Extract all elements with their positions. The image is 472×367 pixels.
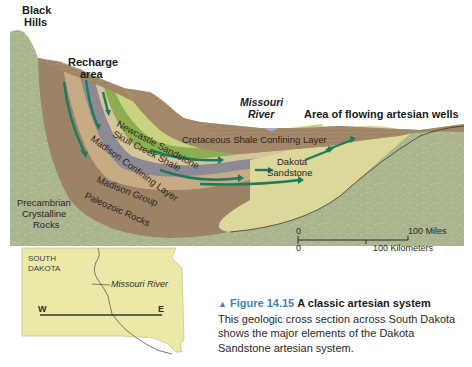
triangle-icon: ▲ [218, 299, 227, 309]
label-precambrian-2: Crystalline [22, 208, 66, 219]
label-black-hills-1: Black [22, 4, 52, 16]
figure-number: Figure 14.15 [230, 297, 294, 309]
figure-title: A classic artesian system [297, 297, 431, 309]
label-black-hills-2: Hills [24, 16, 47, 28]
inset-west: W [38, 304, 47, 314]
figure-body: This geologic cross section across South… [218, 313, 455, 354]
label-missouri-2: River [248, 108, 275, 120]
scale-miles-zero: 0 [296, 226, 301, 236]
scale-miles-label: 100 Miles [408, 226, 447, 236]
artesian-system-figure: Black Hills Recharge area Missouri River… [0, 0, 472, 367]
inset-east: E [158, 304, 164, 314]
label-cretaceous: Cretaceous Shale Confining Layer [182, 134, 327, 145]
label-recharge-2: area [80, 68, 104, 80]
inset-river-label: Missouri River [111, 279, 169, 289]
scale-km-label: 100 Kilometers [373, 243, 434, 253]
scale-km-zero: 0 [296, 243, 301, 253]
label-dakota-2: Sandstone [267, 167, 312, 178]
label-precambrian-1: Precambrian [17, 197, 71, 208]
inset-state-2: DAKOTA [28, 264, 61, 273]
label-precambrian-3: Rocks [33, 219, 60, 230]
inset-map-south-dakota: SOUTH DAKOTA Missouri River W E [22, 248, 184, 354]
label-recharge-1: Recharge [68, 56, 118, 68]
label-flowing-wells: Area of flowing artesian wells [304, 108, 459, 120]
label-missouri-1: Missouri [240, 96, 284, 108]
label-dakota-1: Dakota [277, 156, 308, 167]
figure-caption: ▲ Figure 14.15 A classic artesian system… [218, 296, 468, 355]
inset-state-1: SOUTH [28, 254, 56, 263]
